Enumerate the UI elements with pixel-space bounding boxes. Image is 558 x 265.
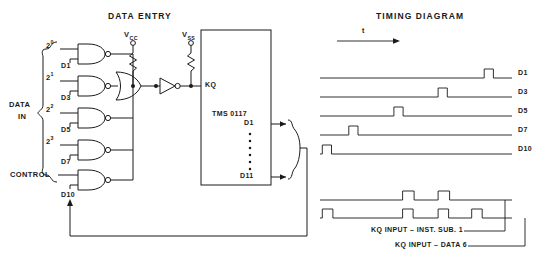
- timing-trace-d3: [320, 88, 512, 97]
- timing-trace-d5: [320, 107, 512, 116]
- timing-drawing: [0, 0, 558, 265]
- timing-trace-label-d10: D10: [518, 145, 532, 152]
- timing-trace-d1: [320, 69, 512, 78]
- kq-trace-2: [320, 209, 512, 218]
- timing-trace-label-d1: D1: [518, 69, 528, 76]
- timing-trace-d10: [320, 145, 512, 154]
- kq-caption-leader-1: [464, 200, 505, 231]
- timing-trace-label-d7: D7: [518, 126, 528, 133]
- timing-trace-d7: [320, 126, 512, 135]
- kq-caption-leader-2: [468, 218, 525, 246]
- timing-trace-label-d5: D5: [518, 107, 528, 114]
- kq-caption-1: KQ INPUT – INST. SUB. 1: [371, 226, 463, 233]
- kq-trace-1: [320, 191, 512, 200]
- figure-root: DATA ENTRY TIMING DIAGRAM: [0, 0, 558, 265]
- kq-caption-2: KQ INPUT – DATA 6: [395, 241, 467, 248]
- timing-trace-label-d3: D3: [518, 88, 528, 95]
- time-axis-label: t: [362, 27, 365, 34]
